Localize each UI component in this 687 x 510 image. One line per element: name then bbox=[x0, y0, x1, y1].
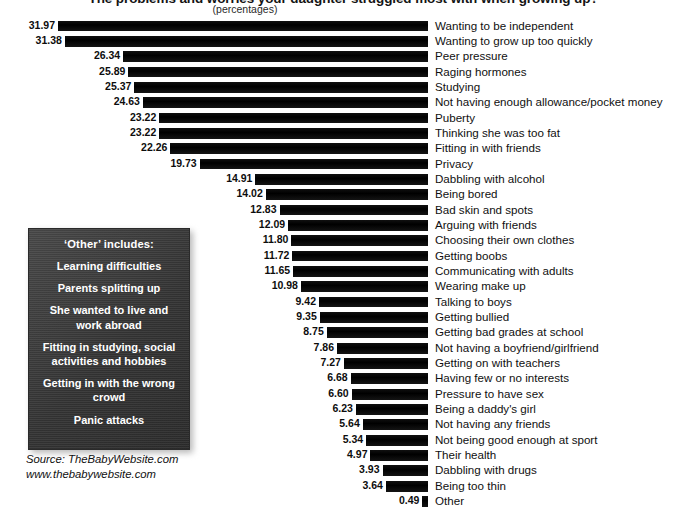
bar-value-label: 5.34 bbox=[319, 434, 363, 446]
bar-row: 3.64Being too thin bbox=[0, 479, 687, 494]
bar-category-label: Wearing make up bbox=[435, 279, 526, 293]
bar-value-label: 12.09 bbox=[241, 219, 285, 231]
bar bbox=[200, 159, 428, 170]
bar bbox=[143, 97, 428, 108]
bar-category-label: Their health bbox=[435, 448, 496, 462]
bar bbox=[292, 251, 428, 262]
bar bbox=[170, 143, 428, 154]
bar bbox=[370, 450, 428, 461]
bar bbox=[363, 419, 428, 430]
bar-category-label: Studying bbox=[435, 80, 480, 94]
bar-category-label: Choosing their own clothes bbox=[435, 233, 574, 247]
callout-item: Getting in with the wrong crowd bbox=[38, 376, 180, 404]
bar-category-label: Talking to boys bbox=[435, 295, 512, 309]
callout-item: Panic attacks bbox=[74, 413, 144, 427]
bar-category-label: Getting boobs bbox=[435, 249, 507, 263]
bar bbox=[327, 327, 428, 338]
bar bbox=[386, 481, 428, 492]
bar bbox=[266, 189, 428, 200]
bar bbox=[255, 174, 428, 185]
bar bbox=[293, 266, 428, 277]
bar-value-label: 3.93 bbox=[336, 464, 380, 476]
bar-value-label: 26.34 bbox=[76, 50, 120, 62]
bar-category-label: Not having enough allowance/pocket money bbox=[435, 95, 663, 109]
bar-category-label: Being too thin bbox=[435, 479, 506, 493]
other-includes-callout: ‘Other’ includes: Learning difficultiesP… bbox=[28, 228, 190, 450]
bar-row: 14.91Dabbling with alcohol bbox=[0, 172, 687, 187]
bar bbox=[288, 220, 428, 231]
bar bbox=[159, 113, 428, 124]
bar-value-label: 6.60 bbox=[305, 388, 349, 400]
bar-category-label: Being a daddy's girl bbox=[435, 402, 536, 416]
bar-row: 23.22Puberty bbox=[0, 111, 687, 126]
bar-row: 31.38Wanting to grow up too quickly bbox=[0, 34, 687, 49]
bar-value-label: 11.72 bbox=[245, 250, 289, 262]
bar-value-label: 0.49 bbox=[375, 495, 419, 507]
bar-row: 26.34Peer pressure bbox=[0, 50, 687, 65]
bar-category-label: Privacy bbox=[435, 157, 473, 171]
bar-value-label: 5.64 bbox=[316, 418, 360, 430]
bar bbox=[280, 205, 428, 216]
bar bbox=[65, 36, 428, 47]
callout-item: Learning difficulties bbox=[57, 259, 162, 273]
bar bbox=[301, 281, 428, 292]
callout-item: Fitting in studying, social activities a… bbox=[38, 340, 180, 368]
bar bbox=[356, 404, 428, 415]
bar-row: 25.37Studying bbox=[0, 80, 687, 95]
bar-category-label: Not having a boyfriend/girlfriend bbox=[435, 341, 599, 355]
bar-category-label: Dabbling with drugs bbox=[435, 463, 537, 477]
bar bbox=[383, 465, 428, 476]
bar bbox=[351, 373, 428, 384]
bar-category-label: Arguing with friends bbox=[435, 218, 537, 232]
bar-row: 24.63Not having enough allowance/pocket … bbox=[0, 96, 687, 111]
bar-value-label: 25.89 bbox=[81, 66, 125, 78]
bar bbox=[134, 82, 428, 93]
bar bbox=[352, 389, 428, 400]
bar-category-label: Getting bullied bbox=[435, 310, 509, 324]
bar-value-label: 22.26 bbox=[123, 142, 167, 154]
bar-value-label: 25.37 bbox=[87, 81, 131, 93]
callout-title: ‘Other’ includes: bbox=[64, 238, 154, 250]
bar-value-label: 23.22 bbox=[112, 112, 156, 124]
source-attribution: Source: TheBabyWebsite.com www.thebabywe… bbox=[26, 452, 178, 481]
source-line-1: Source: TheBabyWebsite.com bbox=[26, 452, 178, 467]
bar-value-label: 4.97 bbox=[323, 449, 367, 461]
bar bbox=[58, 21, 428, 32]
bar-category-label: Not having any friends bbox=[435, 417, 550, 431]
bar bbox=[128, 67, 428, 78]
bar-value-label: 23.22 bbox=[112, 127, 156, 139]
bar-row: 23.22Thinking she was too fat bbox=[0, 126, 687, 141]
bar-value-label: 7.27 bbox=[297, 357, 341, 369]
bar-category-label: Raging hormones bbox=[435, 65, 527, 79]
bar-category-label: Not being good enough at sport bbox=[435, 433, 597, 447]
bar-value-label: 8.75 bbox=[280, 326, 324, 338]
bar-value-label: 3.64 bbox=[339, 480, 383, 492]
bar-category-label: Being bored bbox=[435, 187, 498, 201]
bar bbox=[366, 435, 428, 446]
bar-value-label: 24.63 bbox=[96, 96, 140, 108]
bar-row: 25.89Raging hormones bbox=[0, 65, 687, 80]
bar-value-label: 12.83 bbox=[233, 204, 277, 216]
source-line-2: www.thebabywebsite.com bbox=[26, 467, 178, 482]
bar-category-label: Peer pressure bbox=[435, 49, 508, 63]
bar-value-label: 9.42 bbox=[272, 296, 316, 308]
bar-category-label: Wanting to grow up too quickly bbox=[435, 34, 592, 48]
bar-row: 22.26Fitting in with friends bbox=[0, 142, 687, 157]
bar bbox=[344, 358, 428, 369]
bar-row: 14.02Being bored bbox=[0, 188, 687, 203]
bar-value-label: 7.86 bbox=[290, 342, 334, 354]
bar-value-label: 14.02 bbox=[219, 188, 263, 200]
bar-category-label: Thinking she was too fat bbox=[435, 126, 560, 140]
bar-category-label: Fitting in with friends bbox=[435, 141, 541, 155]
bar-row: 0.49Other bbox=[0, 495, 687, 510]
bar bbox=[319, 297, 428, 308]
bar-value-label: 31.97 bbox=[11, 20, 55, 32]
callout-item: Parents splitting up bbox=[58, 281, 161, 295]
bar-category-label: Pressure to have sex bbox=[435, 387, 544, 401]
bar-category-label: Dabbling with alcohol bbox=[435, 172, 545, 186]
bar-category-label: Bad skin and spots bbox=[435, 203, 533, 217]
bar-category-label: Communicating with adults bbox=[435, 264, 574, 278]
bar bbox=[320, 312, 428, 323]
bar-value-label: 19.73 bbox=[153, 158, 197, 170]
